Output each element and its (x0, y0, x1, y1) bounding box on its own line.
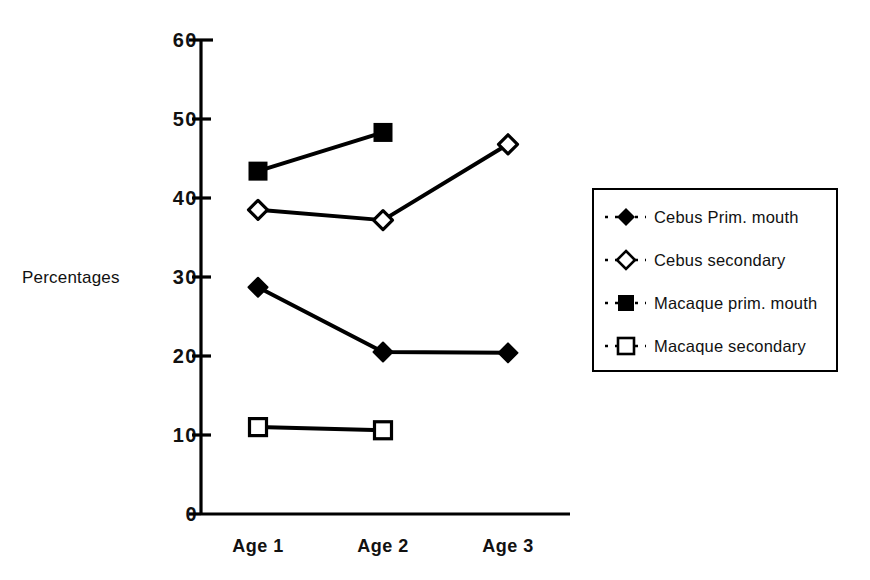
chart-figure: Percentages 60 50 40 30 20 10 0 Age 1 Ag… (0, 0, 870, 580)
legend-item-cebus-prim-mouth: Cebus Prim. mouth (604, 202, 799, 232)
data-point-macaque-prim-mouth-age-1 (250, 163, 267, 180)
data-point-cebus-prim-mouth-age-2 (374, 343, 393, 362)
data-point-cebus-secondary-age-2 (374, 211, 393, 230)
legend-label-cebus-secondary: Cebus secondary (654, 251, 785, 270)
legend-label-macaque-prim-mouth: Macaque prim. mouth (654, 294, 817, 313)
series-cebus-prim-mouth (249, 278, 518, 363)
series-line (258, 427, 383, 430)
data-point-macaque-prim-mouth-age-2 (375, 124, 392, 141)
data-point-cebus-secondary-age-1 (249, 200, 268, 219)
open-diamond-marker-icon (604, 247, 648, 273)
legend-label-cebus-prim-mouth: Cebus Prim. mouth (654, 208, 799, 227)
series-macaque-secondary (250, 419, 392, 439)
data-point-cebus-secondary-age-3 (499, 135, 518, 154)
legend-item-cebus-secondary: Cebus secondary (604, 245, 785, 275)
series-layer (249, 124, 518, 439)
data-point-cebus-prim-mouth-age-1 (249, 278, 268, 297)
legend-item-macaque-secondary: Macaque secondary (604, 331, 806, 361)
filled-square-marker-icon (604, 290, 648, 316)
series-line (258, 132, 383, 171)
series-cebus-secondary (249, 135, 518, 230)
legend-item-macaque-prim-mouth: Macaque prim. mouth (604, 288, 817, 318)
data-point-macaque-secondary-age-2 (375, 422, 392, 439)
series-line (258, 144, 508, 220)
chart-legend: Cebus Prim. mouth Cebus secondary Macaqu… (592, 188, 838, 372)
data-point-cebus-prim-mouth-age-3 (499, 343, 518, 362)
legend-label-macaque-secondary: Macaque secondary (654, 337, 806, 356)
series-macaque-prim-mouth (250, 124, 392, 180)
filled-diamond-marker-icon (604, 204, 648, 230)
data-point-macaque-secondary-age-1 (250, 419, 267, 436)
open-square-marker-icon (604, 333, 648, 359)
